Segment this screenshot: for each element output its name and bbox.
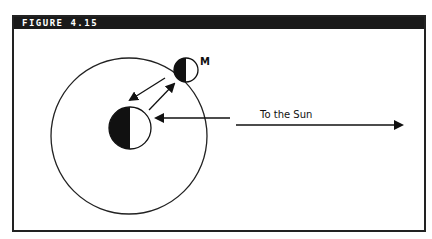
earth-icon <box>109 107 151 149</box>
arrow-moon-to-earth <box>130 78 165 100</box>
diagram-canvas <box>0 0 432 239</box>
sun-direction-label: To the Sun <box>260 109 312 120</box>
arrow-earth-to-moon <box>149 84 174 110</box>
moon-label: M <box>200 56 210 67</box>
moon-icon <box>174 58 198 82</box>
